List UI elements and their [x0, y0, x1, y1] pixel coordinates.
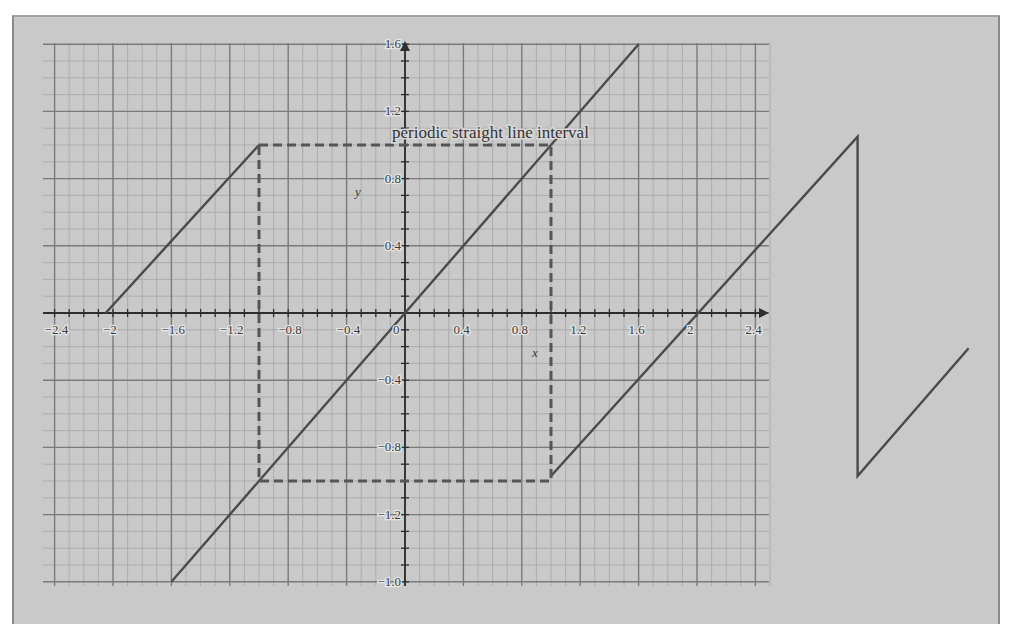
x-axis-name: x: [531, 345, 538, 360]
annotation-label: periodic straight line interval: [392, 123, 589, 142]
x-tick-label: −2: [103, 322, 117, 337]
x-tick-label: 2.4: [745, 322, 762, 337]
y-tick-label: 1.2: [385, 103, 401, 118]
x-tick-label: −0.4: [337, 322, 361, 337]
x-tick-label: −1.2: [220, 322, 244, 337]
x-tick-label: 0.4: [453, 322, 470, 337]
chart-plot: −2.4−2−1.6−1.2−0.8−0.400.40.81.21.622.41…: [0, 0, 1014, 624]
y-tick-label: 0.8: [385, 171, 401, 186]
x-tick-label: 1.6: [629, 322, 646, 337]
x-tick-label: −0.8: [278, 322, 302, 337]
x-tick-label: 0: [393, 322, 400, 337]
y-axis-name: y: [353, 184, 361, 199]
y-tick-label: −0.4: [377, 372, 401, 387]
y-tick-label: 0.4: [385, 238, 402, 253]
y-tick-label: −0.8: [377, 439, 401, 454]
line-segment: [551, 137, 969, 476]
y-axis-arrow-icon: [400, 41, 410, 51]
y-tick-label: −1.2: [377, 507, 401, 522]
x-tick-label: 2: [687, 322, 694, 337]
x-tick-label: 1.2: [570, 322, 586, 337]
x-tick-label: 0.8: [512, 322, 528, 337]
y-tick-label: 1.6: [385, 36, 402, 51]
y-tick-label: −1.0: [377, 574, 401, 589]
x-axis-arrow-icon: [759, 308, 769, 318]
x-tick-label: −2.4: [45, 322, 69, 337]
x-tick-label: −1.6: [161, 322, 185, 337]
